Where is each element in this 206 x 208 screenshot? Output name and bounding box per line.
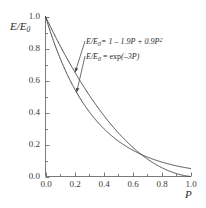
x-axis-title: P	[185, 188, 192, 200]
annotation-quadratic-label: E/E0= 1 – 1.9P + 0.9P2	[86, 37, 162, 47]
annotation-exponential-equals: =	[101, 52, 110, 61]
y-tick-label-5: 1.0	[16, 11, 40, 21]
x-axis-ticks	[47, 173, 192, 177]
x-tick-label-1: 0.2	[64, 179, 86, 189]
y-tick-label-1: 0.2	[16, 139, 40, 149]
annotation-quadratic-rhs: = 1 – 1.9P + 0.9P	[101, 37, 159, 46]
y-axis-title-sub: 0	[27, 25, 31, 34]
annotation-exponential-label: E/E0 = exp(–3P)	[86, 52, 139, 62]
y-axis-title: E/E0	[10, 20, 30, 34]
y-tick-label-3: 0.6	[16, 75, 40, 85]
x-tick-label-0: 0.0	[35, 179, 57, 189]
x-tick-label-3: 0.6	[122, 179, 144, 189]
annotation-leader-lines	[75, 41, 85, 92]
chart-figure: E/E0 P 0.0 0.2 0.4 0.6 0.8 1.0 0.0 0.2 0…	[0, 0, 206, 208]
annotation-quadratic-lhs: E/E	[86, 37, 98, 46]
y-tick-label-2: 0.4	[16, 107, 40, 117]
y-axis-title-main: E/E	[10, 20, 27, 32]
annotation-exponential-fn: exp	[110, 52, 122, 61]
annotation-quadratic-sup: 2	[159, 37, 162, 43]
annotation-exponential-arg: (–3P)	[121, 52, 139, 61]
y-axis-ticks	[46, 18, 50, 178]
x-tick-label-4: 0.8	[151, 179, 173, 189]
x-tick-label-5: 1.0	[180, 179, 202, 189]
y-tick-label-4: 0.8	[16, 43, 40, 53]
x-tick-label-2: 0.4	[93, 179, 115, 189]
annotation-exponential-lhs: E/E	[86, 52, 98, 61]
